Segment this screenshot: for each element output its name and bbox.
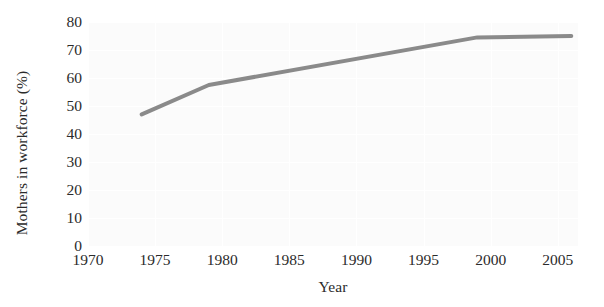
y-axis-title: Mothers in workforce (%) bbox=[7, 18, 37, 288]
y-axis-tick-label: 50 bbox=[48, 98, 82, 114]
x-axis-tick-label: 1995 bbox=[389, 252, 459, 268]
series-line-mothers-in-workforce bbox=[142, 36, 572, 114]
x-axis-tick-label: 1990 bbox=[321, 252, 391, 268]
y-axis-tick-label: 60 bbox=[48, 70, 82, 86]
y-axis-tick-label: 20 bbox=[48, 182, 82, 198]
y-axis-tick-label: 80 bbox=[48, 14, 82, 30]
x-axis-tick-label: 2000 bbox=[456, 252, 526, 268]
x-axis-title: Year bbox=[88, 278, 578, 296]
x-axis-tick-label: 2005 bbox=[523, 252, 593, 268]
gridline-horizontal bbox=[88, 246, 578, 247]
line-chart: Mothers in workforce (%) 010203040506070… bbox=[0, 0, 604, 307]
x-axis-tick-labels: 19701975198019851990199520002005 bbox=[0, 252, 604, 274]
x-axis-tick-label: 1985 bbox=[254, 252, 324, 268]
series-line-layer bbox=[88, 22, 578, 246]
y-axis-tick-label: 10 bbox=[48, 210, 82, 226]
x-axis-tick-label: 1980 bbox=[187, 252, 257, 268]
y-axis-tick-label: 30 bbox=[48, 154, 82, 170]
x-axis-tick-label: 1970 bbox=[53, 252, 123, 268]
y-axis-tick-label: 70 bbox=[48, 42, 82, 58]
y-axis-tick-label: 40 bbox=[48, 126, 82, 142]
x-axis-tick-label: 1975 bbox=[120, 252, 190, 268]
plot-area bbox=[88, 22, 578, 246]
